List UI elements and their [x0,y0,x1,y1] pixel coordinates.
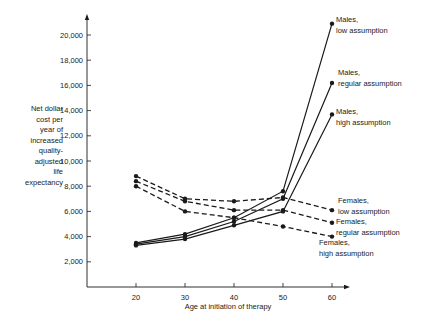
y-axis-label-line: increased [30,136,63,145]
chart: 2,0004,0006,0008,00010,00012,00014,00016… [0,0,422,326]
y-axis-label-line: year of [40,125,64,134]
data-point-females-low-assumption [281,195,285,199]
y-axis-label-line: Net dollar [31,104,64,113]
axes: 2,0004,0006,0008,00010,00012,00014,00016… [60,14,350,302]
series-label-males-high-assumption: Males, [336,107,358,116]
y-tick-label: 14,000 [60,106,83,115]
data-point-males-high-assumption [183,237,187,241]
y-axis-label-line: expectancy [25,178,63,187]
y-tick-label: 6,000 [64,207,83,216]
y-tick-label: 2,000 [64,257,83,266]
y-tick-label: 8,000 [64,182,83,191]
series-label-females-regular-assumption: regular assumption [336,228,400,237]
y-axis-label-line: adjusted [35,157,63,166]
data-point-males-low-assumption [330,21,334,25]
y-tick-label: 4,000 [64,232,83,241]
series-label-males-regular-assumption: Males, [338,68,360,77]
series-label-females-high-assumption: high assumption [319,249,374,258]
series-line-females-low-assumption [136,176,332,210]
data-point-females-low-assumption [134,174,138,178]
data-point-females-regular-assumption [183,199,187,203]
data-point-males-high-assumption [232,223,236,227]
x-axis-arrow [344,285,350,289]
x-axis-label: Age at initiation of therapy [185,302,272,311]
x-tick-label: 20 [132,293,140,302]
data-point-males-regular-assumption [232,219,236,223]
series-label-females-regular-assumption: Females, [336,217,367,226]
data-point-females-regular-assumption [330,221,334,225]
x-tick-label: 30 [181,293,189,302]
y-tick-label: 10,000 [60,157,83,166]
y-axis-label-line: life [53,167,63,176]
data-point-females-regular-assumption [232,208,236,212]
series-label-males-low-assumption: Males, [336,15,358,24]
series-label-males-regular-assumption: regular assumption [338,79,402,88]
data-point-males-regular-assumption [330,81,334,85]
data-point-males-low-assumption [281,189,285,193]
data-point-females-regular-assumption [281,208,285,212]
series-label-females-low-assumption: Females, [338,196,369,205]
x-tick-label: 60 [328,293,336,302]
data-point-females-high-assumption [281,224,285,228]
data-point-females-high-assumption [183,209,187,213]
x-tick-label: 50 [279,293,287,302]
series-label-males-low-assumption: low assumption [336,26,388,35]
data-point-females-low-assumption [330,208,334,212]
data-point-females-high-assumption [232,216,236,220]
data-point-females-high-assumption [134,184,138,188]
y-tick-label: 18,000 [60,56,83,65]
data-point-males-high-assumption [330,112,334,116]
y-tick-label: 12,000 [60,131,83,140]
data-point-males-high-assumption [134,243,138,247]
y-tick-label: 20,000 [60,31,83,40]
series-label-females-high-assumption: Females, [319,238,350,247]
series-group [134,21,334,247]
data-point-females-low-assumption [232,199,236,203]
data-point-females-regular-assumption [134,179,138,183]
x-tick-label: 40 [230,293,238,302]
series-label-females-low-assumption: low assumption [338,207,390,216]
y-axis-arrow [85,14,89,20]
y-axis-label: Net dollarcost peryear ofincreasedqualit… [25,104,64,187]
series-label-males-high-assumption: high assumption [336,118,391,127]
y-axis-label-line: quality- [39,146,64,155]
y-tick-label: 16,000 [60,81,83,90]
y-axis-label-line: cost per [36,115,63,124]
